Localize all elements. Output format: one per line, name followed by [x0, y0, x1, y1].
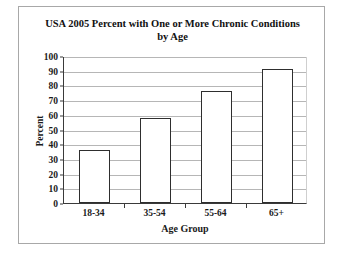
- bar-series: [64, 57, 306, 203]
- y-axis-tick-label: 40: [49, 140, 59, 150]
- bar-slot: [64, 57, 125, 203]
- x-axis-title-label: Age Group: [161, 223, 208, 234]
- y-axis-tick-label: 60: [49, 111, 59, 121]
- x-axis-tick-label: 55-64: [204, 208, 226, 218]
- y-axis-tick-label: 70: [49, 96, 59, 106]
- y-axis-tick-label: 80: [49, 81, 59, 91]
- bar[interactable]: [262, 69, 293, 203]
- x-axis-tick-label: 35-54: [143, 208, 165, 218]
- y-axis-tick-label: 90: [49, 67, 59, 77]
- y-axis-tick-label: 30: [49, 155, 59, 165]
- bar[interactable]: [201, 91, 232, 203]
- y-axis-ticks: 0102030405060708090100: [19, 57, 63, 204]
- bar[interactable]: [140, 118, 171, 203]
- x-axis-tick-label: 65+: [269, 208, 284, 218]
- y-axis-tick-label: 50: [49, 126, 59, 136]
- x-axis-title: Age Group: [63, 223, 307, 234]
- y-axis-tick-label: 20: [49, 170, 59, 180]
- y-axis-tick-label: 10: [49, 184, 59, 194]
- bar-slot: [247, 57, 308, 203]
- bar-slot: [125, 57, 186, 203]
- bar[interactable]: [79, 150, 110, 203]
- chart-figure: USA 2005 Percent with One or More Chroni…: [18, 6, 325, 244]
- y-axis-tick-label: 100: [44, 52, 58, 62]
- plot-area: [63, 57, 307, 204]
- y-axis-tick-label: 0: [53, 199, 58, 209]
- chart-title: USA 2005 Percent with One or More Chroni…: [35, 17, 310, 43]
- x-axis-tick-labels: 18-3435-5455-6465+: [63, 208, 307, 222]
- bar-slot: [186, 57, 247, 203]
- x-axis-tick-label: 18-34: [82, 208, 104, 218]
- chart-title-line-2: by Age: [35, 30, 310, 43]
- chart-title-line-1: USA 2005 Percent with One or More Chroni…: [45, 18, 300, 29]
